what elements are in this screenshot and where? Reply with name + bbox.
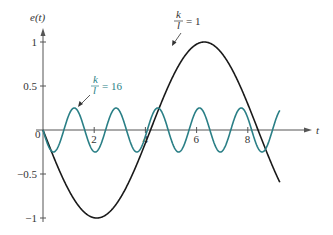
y-tick-label: −0.5 [17,168,37,180]
y-axis-arrow-icon [41,28,46,36]
annotation-arrow [81,95,90,104]
x-tick-label: 6 [194,133,200,145]
x-tick-label: 8 [245,133,251,145]
origin-label: 0 [35,128,41,140]
annotation-k-over-l-1: k l = 1 [172,8,200,46]
y-tick-label: −1 [25,212,37,224]
y-tick-label: 0.5 [23,80,37,92]
chart: e(t) t 0 2468 10.5−0.5−1 k l = 1 k l = 1… [0,0,333,235]
x-axis-arrow-icon [304,128,312,133]
y-axis-label: e(t) [30,11,46,24]
annotation-k-over-l-16: k l = 16 [78,73,122,107]
svg-text:= 16: = 16 [102,80,122,92]
x-tick-label: 2 [91,133,97,145]
x-axis-label: t [316,124,320,136]
svg-text:l: l [177,19,180,31]
svg-text:= 1: = 1 [186,15,200,27]
annotation-arrowhead-icon [78,101,83,107]
annotation-arrow [174,33,181,43]
y-tick-label: 1 [32,36,38,48]
svg-text:l: l [93,84,96,96]
